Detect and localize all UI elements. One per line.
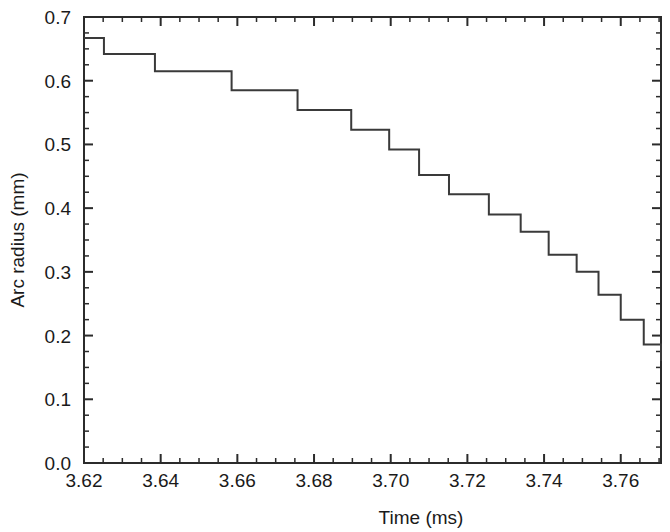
y-tick-label: 0.2 [45, 326, 71, 347]
y-tick-label: 0.3 [45, 262, 71, 283]
y-tick-label: 0.4 [45, 198, 72, 219]
x-tick-label: 3.70 [372, 470, 409, 491]
y-tick-label: 0.7 [45, 7, 71, 28]
x-tick-label: 3.66 [219, 470, 256, 491]
x-tick-label: 3.76 [602, 470, 639, 491]
y-axis-title: Arc radius (mm) [7, 172, 28, 307]
x-tick-label: 3.62 [66, 470, 103, 491]
x-axis-title: Time (ms) [379, 507, 464, 528]
y-tick-label: 0.0 [45, 453, 71, 474]
chart-page: 3.623.643.663.683.703.723.743.76 0.00.10… [0, 0, 670, 532]
y-tick-label: 0.1 [45, 389, 71, 410]
y-tick-label: 0.6 [45, 71, 71, 92]
x-tick-label: 3.64 [142, 470, 179, 491]
arc-radius-vs-time-chart: 3.623.643.663.683.703.723.743.76 0.00.10… [0, 0, 670, 532]
x-tick-label: 3.72 [449, 470, 486, 491]
chart-background [0, 0, 670, 532]
x-tick-label: 3.68 [296, 470, 333, 491]
y-tick-label: 0.5 [45, 134, 71, 155]
x-tick-label: 3.74 [526, 470, 563, 491]
